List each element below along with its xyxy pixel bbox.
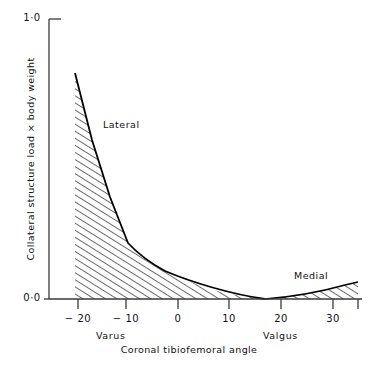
x-axis-ticks [78, 299, 358, 309]
x-tick-label-10: 10 [212, 313, 246, 324]
chart-figure: 1·0 0·0 − 20 − 10 0 10 20 30 Varus Valgu… [0, 0, 378, 371]
x-tick-label-0: 0 [161, 313, 195, 324]
x-tick-label-20: 20 [264, 313, 298, 324]
x-tick-label-minus20: − 20 [56, 313, 100, 324]
x-tick-label-minus10: − 10 [104, 313, 148, 324]
lateral-curve-label: Lateral [103, 119, 140, 130]
x-axis-varus-label: Varus [96, 330, 125, 341]
x-tick-label-30: 30 [316, 313, 350, 324]
lateral-area [75, 73, 265, 299]
medial-curve-label: Medial [294, 270, 328, 281]
y-tick-label-bottom: 0·0 [18, 292, 46, 303]
x-axis-valgus-label: Valgus [263, 330, 298, 341]
x-axis-title: Coronal tibiofemoral angle [0, 344, 378, 355]
y-axis-title: Collateral structure load × body weight [25, 61, 36, 261]
y-tick-label-top: 1·0 [18, 12, 46, 23]
